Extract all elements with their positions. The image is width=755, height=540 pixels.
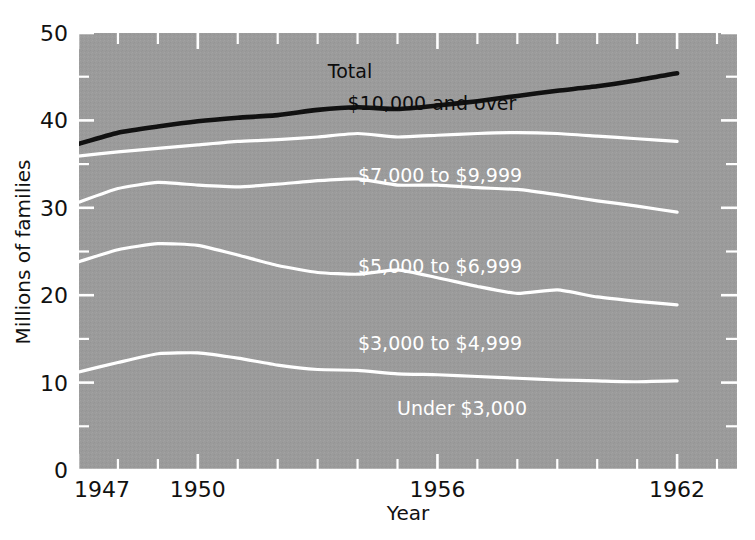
y-tick-label: 20 (40, 283, 68, 308)
x-tick-label: 1947 (74, 477, 130, 502)
y-tick-labels: 01020304050 (40, 21, 68, 483)
x-tick-labels: 1947195019561962 (74, 477, 705, 502)
y-tick-label: 50 (40, 21, 68, 46)
y-tick-label: 10 (40, 371, 68, 396)
series-label-b7to9: $7,000 to $9,999 (358, 164, 522, 186)
series-label-b5to6: $5,000 to $6,999 (358, 255, 522, 277)
series-label-b3to4: $3,000 to $4,999 (358, 332, 522, 354)
series-label-total: Total (327, 60, 372, 82)
x-tick-label: 1950 (170, 477, 226, 502)
x-tick-label: 1962 (649, 477, 705, 502)
series-label-over10k: $10,000 and over (348, 92, 517, 114)
income-distribution-area-chart: 01020304050 1947195019561962 Total$10,00… (0, 0, 755, 540)
x-axis-title: Year (386, 501, 430, 525)
chart-figure: 01020304050 1947195019561962 Total$10,00… (0, 0, 755, 540)
series-label-under3k: Under $3,000 (397, 397, 527, 419)
y-tick-label: 0 (54, 458, 68, 483)
y-tick-label: 30 (40, 196, 68, 221)
y-axis-title: Millions of families (11, 160, 35, 345)
y-tick-label: 40 (40, 108, 68, 133)
x-tick-label: 1956 (409, 477, 465, 502)
